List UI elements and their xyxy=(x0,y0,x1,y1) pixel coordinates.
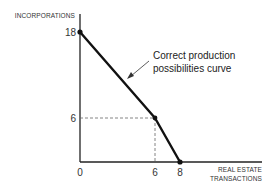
point-0-18 xyxy=(77,29,82,34)
point-8-0 xyxy=(177,159,182,164)
y-axis-title: INCORPORATIONS xyxy=(15,12,76,19)
ppc-chart: INCORPORATIONS REAL ESTATE TRANSACTIONS … xyxy=(0,0,279,188)
y-tick-6: 6 xyxy=(70,113,76,124)
x-tick-8: 8 xyxy=(177,167,183,178)
point-6-6 xyxy=(153,116,158,121)
x-tick-0: 0 xyxy=(77,167,83,178)
x-axis-title-line1: REAL ESTATE xyxy=(218,166,263,173)
annotation-arrow xyxy=(131,61,149,76)
annotation-line1: Correct production xyxy=(153,50,235,61)
annotation-line2: possibilities curve xyxy=(153,63,232,74)
x-tick-6: 6 xyxy=(152,167,158,178)
x-axis-title-line2: TRANSACTIONS xyxy=(210,175,263,182)
arrowhead-icon xyxy=(127,72,134,79)
y-tick-18: 18 xyxy=(65,27,77,38)
